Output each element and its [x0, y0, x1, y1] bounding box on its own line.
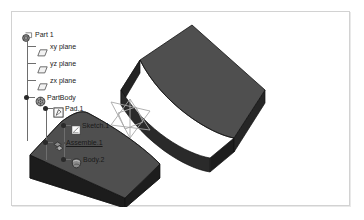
tree-node-label: Sketch.1	[80, 121, 109, 130]
tree-branch-line-assemble	[46, 108, 47, 160]
tree-node-xy-plane[interactable]: xy plane	[37, 40, 76, 53]
body-icon	[71, 155, 81, 165]
pad-icon	[53, 104, 63, 114]
tree-node-zx-plane[interactable]: zx plane	[37, 74, 76, 87]
specification-tree[interactable]: Part 1 xy plane yz plane	[12, 12, 182, 172]
tree-node-label: PartBody	[45, 93, 76, 102]
expand-dot-sketch[interactable]	[61, 123, 66, 128]
tree-trunk-line	[27, 34, 28, 141]
part-icon	[22, 29, 33, 40]
plane-icon	[37, 60, 48, 68]
plane-icon	[37, 77, 48, 85]
expand-dot-pad[interactable]	[43, 106, 48, 111]
tree-node-label: yz plane	[48, 59, 76, 68]
sketch-icon	[71, 121, 80, 130]
assemble-icon	[53, 138, 64, 148]
tree-connector-yz	[27, 63, 36, 64]
tree-node-label: Part 1	[33, 30, 54, 39]
partbody-icon	[35, 93, 45, 103]
expand-dot-body[interactable]	[61, 157, 66, 162]
tree-node-yz-plane[interactable]: yz plane	[37, 57, 76, 70]
tree-node-sketch1[interactable]: Sketch.1	[71, 119, 109, 132]
plane-icon	[37, 43, 48, 51]
tree-node-pad1[interactable]: Pad.1	[53, 102, 83, 115]
tree-connector-xy	[27, 46, 36, 47]
tree-node-body2[interactable]: Body.2	[71, 153, 104, 166]
expand-dot-partbody[interactable]	[24, 95, 29, 100]
cad-viewport-frame: Part 1 xy plane yz plane	[11, 11, 350, 206]
tree-node-label: Assemble.1	[64, 138, 103, 147]
tree-connector-zx	[27, 80, 36, 81]
tree-node-label: xy plane	[48, 42, 76, 51]
tree-node-label: Body.2	[81, 155, 104, 164]
tree-node-assemble1[interactable]: Assemble.1	[53, 136, 103, 149]
expand-dot-assemble[interactable]	[43, 140, 48, 145]
tree-node-label: zx plane	[48, 76, 76, 85]
tree-node-label: Pad.1	[63, 104, 83, 113]
screenshot-root: Part 1 xy plane yz plane	[0, 0, 364, 220]
